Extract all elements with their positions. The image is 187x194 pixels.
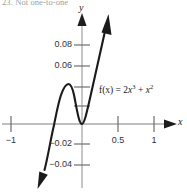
x-tick-label-1: 1 (145, 135, 163, 145)
function-curve (45, 29, 106, 170)
x-axis-arrow-icon (164, 120, 177, 129)
function-term2-exponent: 2 (150, 83, 153, 90)
curve-arrow-upper-right-icon (102, 14, 112, 35)
y-tick-label-neg0.02: −0.02 (34, 138, 72, 148)
y-tick-label-0.08: 0.08 (34, 39, 72, 49)
y-tick-label-neg0.04: −0.04 (34, 159, 72, 169)
y-axis-label: y (79, 2, 83, 13)
x-tick-label-neg1: −1 (1, 135, 21, 145)
function-operator-plus: + (136, 85, 146, 95)
function-annotation: f(x) = 2x3 + x2 (99, 85, 153, 95)
curve-arrow-lower-left-icon (38, 172, 48, 190)
function-lhs: f(x) = (99, 85, 123, 95)
x-tick-label-0.5: 0.5 (105, 135, 131, 145)
y-axis-arrow-icon (77, 13, 86, 26)
graph-figure: 23. Not one-to-one y x 0.08 0.06 −0.02 −… (0, 0, 187, 194)
x-axis-label: x (178, 116, 182, 127)
coordinate-plane-svg (0, 0, 187, 194)
y-tick-label-0.06: 0.06 (34, 60, 72, 70)
